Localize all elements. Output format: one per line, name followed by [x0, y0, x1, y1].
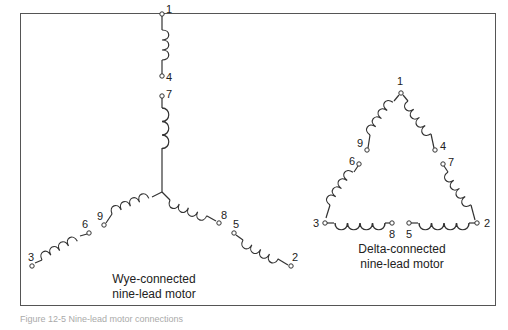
- wye-coil-6-3: [30, 231, 91, 268]
- delta-label-6: 6: [349, 155, 355, 167]
- terminal-7: [160, 94, 164, 98]
- terminal-1: [160, 12, 164, 16]
- terminal-5: [232, 231, 236, 235]
- delta-title-line1: Delta-connected: [358, 242, 445, 256]
- delta-label-2: 2: [484, 217, 490, 229]
- delta-label-3: 3: [313, 217, 319, 229]
- delta-label-7: 7: [448, 156, 454, 168]
- terminal-2: [475, 221, 479, 225]
- terminal-6: [357, 162, 361, 166]
- figure-caption: Figure 12-5 Nine-lead motor connections: [20, 314, 183, 324]
- wye-coil-1-4: [160, 12, 169, 78]
- delta-label-9: 9: [357, 137, 363, 149]
- delta-label-5: 5: [406, 228, 412, 240]
- wye-coil-7: [160, 94, 169, 192]
- terminal-1: [399, 91, 403, 95]
- delta-coil-6-3: [323, 162, 361, 225]
- delta-label-8: 8: [389, 228, 395, 240]
- delta-title-line2: nine-lead motor: [360, 257, 443, 271]
- terminal-3: [30, 264, 34, 268]
- wye-label-5: 5: [233, 218, 239, 230]
- terminal-8: [390, 221, 394, 225]
- wye-label-1: 1: [166, 3, 172, 15]
- delta-label-4: 4: [440, 140, 446, 152]
- terminal-5: [407, 221, 411, 225]
- wye-label-7: 7: [166, 88, 172, 100]
- terminal-2: [289, 264, 293, 268]
- delta-coil-5-2: [407, 221, 475, 230]
- delta-diagram: 1 9 4 6 7 3 8 5 2 Delta-connected nine-l…: [313, 75, 490, 271]
- terminal-9: [365, 148, 369, 152]
- terminal-6: [87, 231, 91, 235]
- wye-title-line2: nine-lead motor: [112, 287, 195, 301]
- terminal-4: [433, 148, 437, 152]
- terminal-4: [160, 74, 164, 78]
- delta-coil-3-8: [327, 221, 394, 230]
- wye-label-4: 4: [166, 71, 172, 83]
- wye-label-3: 3: [28, 251, 34, 263]
- wye-title-line1: Wye-connected: [112, 272, 195, 286]
- delta-label-1: 1: [397, 75, 403, 87]
- terminal-8: [217, 221, 221, 225]
- wye-label-6: 6: [82, 218, 88, 230]
- wye-coil-5-2: [232, 231, 293, 268]
- wye-label-8: 8: [221, 209, 227, 221]
- delta-coil-7-2: [441, 162, 479, 225]
- terminal-3: [323, 221, 327, 225]
- terminal-9: [102, 223, 106, 227]
- delta-coil-1-9: [364, 95, 399, 152]
- terminal-7: [441, 162, 445, 166]
- wye-diagram: 1 4 7 9 6 3 8 5 2 Wye-connected nine-lea…: [28, 3, 298, 301]
- wye-label-2: 2: [292, 251, 298, 263]
- wye-coil-8: [162, 192, 221, 225]
- wye-label-9: 9: [97, 210, 103, 222]
- delta-coil-1-4: [402, 95, 437, 152]
- wye-coil-9: [102, 192, 162, 227]
- motor-connection-diagram: 1 4 7 9 6 3 8 5 2 Wye-connected nine-lea…: [0, 0, 508, 330]
